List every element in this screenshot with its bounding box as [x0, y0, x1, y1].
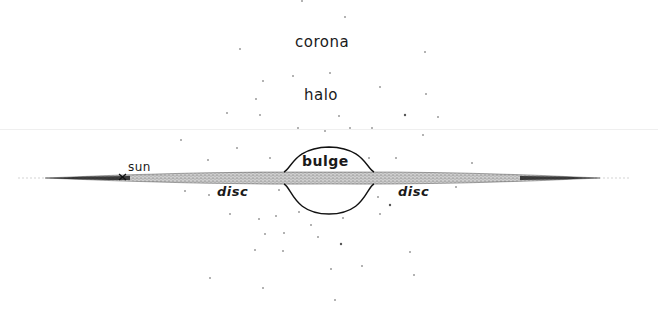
disc-dark-edge-left — [45, 176, 130, 180]
disc-dark-edge-right — [520, 176, 600, 180]
sun-label: sun — [128, 160, 151, 174]
corona-label: corona — [295, 33, 349, 51]
disc-label-right: disc — [398, 184, 429, 199]
halo-label: halo — [304, 86, 338, 104]
bulge-label: bulge — [302, 153, 349, 169]
disc-label-left: disc — [217, 184, 248, 199]
